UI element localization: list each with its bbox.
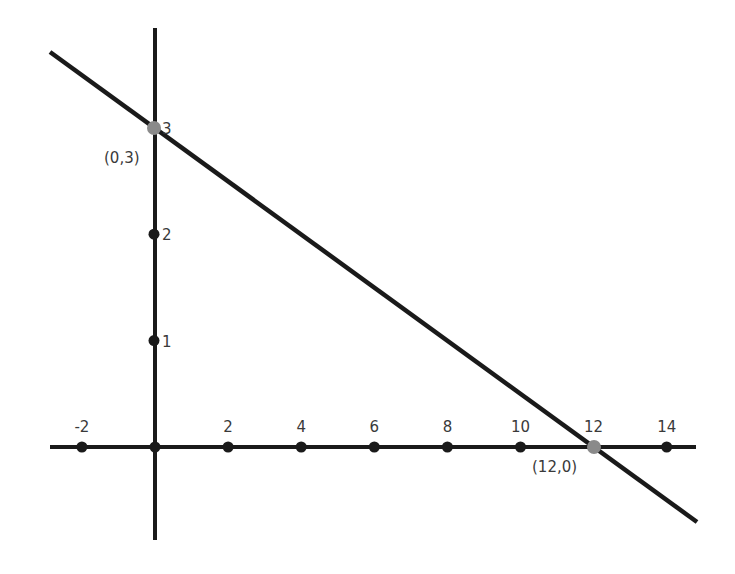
y-tick-dot [149, 335, 160, 346]
x-tick-dot [150, 442, 161, 453]
y-tick-label: 1 [162, 333, 172, 351]
y-tick-dot [149, 229, 160, 240]
y-tick-label: 3 [162, 120, 172, 138]
x-tick-dot [515, 442, 526, 453]
x-tick-dot [442, 442, 453, 453]
x-tick-label: 10 [511, 418, 530, 436]
x-tick-dot [661, 442, 672, 453]
coordinate-plane: -22468101412 123 (0,3) (12,0) [0, 0, 735, 574]
x-tick-label: -2 [74, 418, 89, 436]
x-tick-label: 8 [443, 418, 453, 436]
x-tick-dot [223, 442, 234, 453]
x-tick-dot [369, 442, 380, 453]
x-tick-dot [76, 442, 87, 453]
x-tick-label: 14 [657, 418, 676, 436]
y-intercept-point: (0,3) [104, 121, 161, 167]
y-axis-ticks: 123 [149, 120, 172, 351]
x-tick-label: 2 [223, 418, 233, 436]
x-tick-label: 4 [296, 418, 306, 436]
y-intercept-label: (0,3) [104, 149, 140, 167]
x-tick-dot [296, 442, 307, 453]
x-intercept-label: (12,0) [532, 458, 577, 476]
x-tick-label: 6 [370, 418, 380, 436]
y-tick-label: 2 [162, 226, 172, 244]
x-tick-label: 12 [584, 418, 603, 436]
